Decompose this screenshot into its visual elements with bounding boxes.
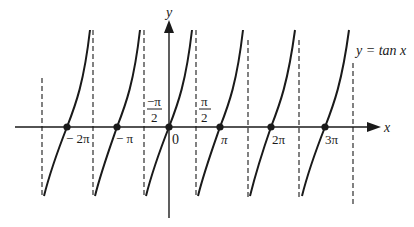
curve-label: y = tan x [354, 43, 407, 58]
pi-over-2-denominator: 2 [201, 110, 208, 125]
tick-label-neg-pi: − π [116, 131, 134, 146]
zero-dot-3pi [321, 123, 328, 130]
zero-dot-0 [165, 123, 172, 130]
tick-label-pi: π [221, 132, 228, 147]
zero-dot-neg-2pi [63, 123, 70, 130]
label-neg-pi-over-2: −π 2 [147, 94, 162, 125]
x-axis-arrow-icon [367, 122, 381, 132]
neg-pi-over-2-denominator: 2 [151, 110, 158, 125]
zero-dot-neg-pi [113, 123, 120, 130]
tan-graph: x y − 2π − π 0 π 2π 3π −π 2 π 2 y = tan [0, 0, 414, 227]
zero-dot-pi [216, 123, 223, 130]
label-pi-over-2: π 2 [199, 94, 211, 125]
zero-dot-2pi [267, 123, 274, 130]
tick-label-3pi: 3π [325, 132, 339, 147]
tick-label-2pi: 2π [272, 132, 286, 147]
y-axis-arrow-icon [164, 20, 174, 33]
branch-2pi [250, 30, 295, 196]
branch-neg-pi [95, 30, 140, 196]
y-axis-label: y [164, 5, 173, 20]
neg-pi-over-2-numerator: −π [147, 94, 161, 109]
pi-over-2-numerator: π [201, 94, 208, 109]
x-axis-label: x [383, 120, 391, 135]
branch-neg-2pi [44, 30, 90, 196]
branch-3pi [302, 30, 349, 196]
tick-label-origin: 0 [172, 132, 179, 147]
tick-label-neg-2pi: − 2π [66, 131, 90, 146]
